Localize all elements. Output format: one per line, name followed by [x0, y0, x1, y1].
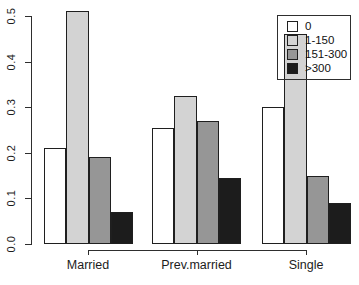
x-tick-mark [306, 250, 307, 255]
legend-entry: 1-150 [287, 35, 348, 47]
x-category-label-prev-married: Prev.married [161, 258, 232, 272]
y-tick-label: 0.1 [5, 190, 17, 207]
bar-married-1-150 [66, 11, 88, 244]
bar-single--300 [329, 203, 351, 244]
legend-entry-label: 151-300 [305, 49, 347, 61]
x-category-label-single: Single [289, 258, 324, 272]
bar-prev-married-151-300 [197, 121, 219, 244]
bar-married-151-300 [89, 157, 111, 244]
grouped-barplot-figure: 0.00.10.20.30.40.5 MarriedPrev.marriedSi… [0, 0, 359, 285]
y-tick-mark [25, 244, 31, 245]
y-tick-mark [25, 107, 31, 108]
bar-married-0 [44, 148, 66, 244]
y-tick-mark [25, 153, 31, 154]
legend-key-swatch [287, 21, 298, 32]
bar-prev-married-0 [152, 128, 174, 244]
y-tick-mark [25, 198, 31, 199]
bar-single-0 [262, 107, 284, 244]
y-tick-label: 0.4 [5, 53, 17, 70]
x-category-label-married: Married [67, 258, 109, 272]
legend-entry: >300 [287, 63, 348, 75]
legend: 01-150151-300>300 [277, 15, 351, 80]
bar-prev-married-1-150 [174, 96, 196, 244]
bar-married--300 [111, 212, 133, 244]
y-axis-line [31, 16, 32, 245]
y-tick-mark [25, 62, 31, 63]
y-tick-label: 0.0 [5, 236, 17, 253]
legend-key-swatch [287, 49, 298, 60]
legend-key-swatch [287, 35, 298, 46]
legend-entry-label: 0 [305, 21, 311, 33]
y-tick-label: 0.2 [5, 144, 17, 161]
x-tick-mark [88, 250, 89, 255]
legend-entry-label: 1-150 [305, 35, 334, 47]
x-tick-mark [197, 250, 198, 255]
bar-prev-married--300 [219, 178, 241, 244]
bar-single-151-300 [307, 176, 329, 244]
y-tick-mark [25, 16, 31, 17]
y-tick-label: 0.3 [5, 99, 17, 116]
y-tick-label: 0.5 [5, 8, 17, 25]
legend-entry: 151-300 [287, 49, 348, 61]
legend-entry-label: >300 [305, 63, 331, 75]
legend-entry: 0 [287, 21, 348, 33]
legend-key-swatch [287, 63, 298, 74]
